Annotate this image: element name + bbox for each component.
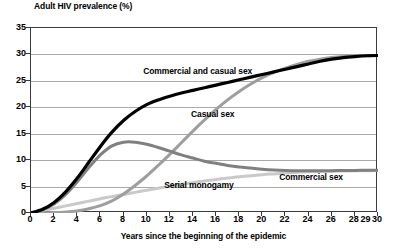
y-axis-tick-label: 30 — [2, 48, 26, 58]
chart-title: Adult HIV prevalence (%) — [34, 1, 132, 11]
y-axis-tick-label: 10 — [2, 154, 26, 164]
series-label: Serial monogamy — [164, 180, 233, 190]
x-axis-title: Years since the beginning of the epidemi… — [0, 231, 407, 241]
y-axis-tick-label: 5 — [2, 181, 26, 191]
series-label: Commercial and casual sex — [143, 66, 252, 76]
series-label: Commercial sex — [279, 172, 343, 182]
chart-container: Adult HIV prevalence (%) 051015202530350… — [0, 0, 407, 250]
y-axis-tick-label: 25 — [2, 75, 26, 85]
y-axis-tick-label: 20 — [2, 101, 26, 111]
y-axis-tick-label: 15 — [2, 128, 26, 138]
y-axis-tick-label: 0 — [2, 207, 26, 217]
series-label: Casual sex — [191, 109, 234, 119]
y-axis-tick-label: 35 — [2, 22, 26, 32]
x-axis-tick-label: 29 — [360, 214, 370, 224]
